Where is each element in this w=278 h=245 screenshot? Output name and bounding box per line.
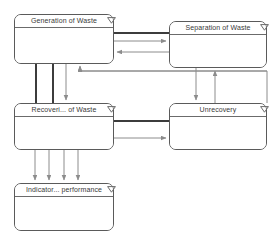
link-unrecovery-to-generation-path[interactable] bbox=[80, 66, 267, 103]
connector-layer-overlay bbox=[0, 0, 278, 245]
diagram-canvas: Generation of Waste Separation of Waste … bbox=[0, 0, 278, 245]
